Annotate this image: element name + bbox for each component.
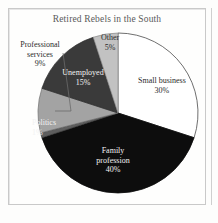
slice-label-other-name: Other [101, 33, 119, 42]
slice-label-professional-services-name-1: Professional [20, 40, 60, 49]
slice-label-small-business-name: Small business [138, 76, 186, 85]
slice-label-professional-services: Professional services 9% [6, 40, 74, 69]
slice-label-politics: Politics 1% [32, 118, 74, 137]
slice-label-family-profession-name-2: profession [96, 156, 129, 165]
slice-label-small-business-pct: 30% [138, 86, 186, 96]
slice-label-family-profession-name-1: Family [102, 146, 125, 155]
adjacent-panel-edge [211, 8, 218, 205]
slice-label-professional-services-pct: 9% [6, 59, 74, 69]
slice-label-politics-name: Politics [32, 118, 56, 127]
page-canvas: Retired Rebels in the South Small busine… [0, 0, 218, 223]
slice-label-family-profession: Family profession 40% [82, 146, 144, 175]
slice-label-professional-services-name-2: services [27, 50, 53, 59]
slice-label-small-business: Small business 30% [138, 76, 186, 95]
slice-label-other: Other 5% [94, 33, 126, 52]
slice-label-politics-pct: 1% [32, 128, 74, 138]
slice-label-family-profession-pct: 40% [82, 165, 144, 175]
slice-label-unemployed-pct: 15% [52, 78, 114, 88]
slice-label-unemployed-name: Unemployed [62, 68, 103, 77]
slice-label-other-pct: 5% [94, 43, 126, 53]
slice-label-unemployed: Unemployed 15% [52, 68, 114, 87]
